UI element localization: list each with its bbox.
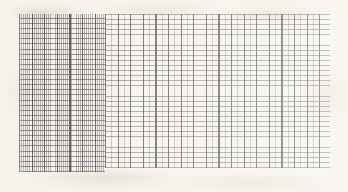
scanned-image-canvas: Scanned sheet of graph paper showing two… — [0, 0, 348, 192]
dense-grid-field — [19, 14, 105, 172]
coarse-grid-field — [105, 14, 330, 168]
